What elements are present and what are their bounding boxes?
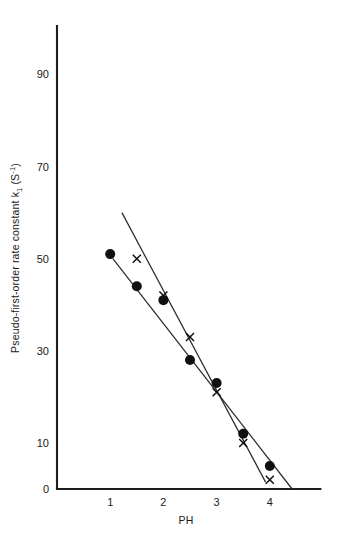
- plot-axes: [57, 26, 320, 489]
- data-series: [105, 249, 275, 484]
- series-cross-series: [133, 255, 274, 484]
- y-axis-title-superscript: -1: [8, 167, 17, 174]
- data-point-circle: [158, 295, 168, 305]
- y-tick-label: 50: [37, 253, 49, 265]
- y-axis-title: Pseudo-first-order rate constant k1 (S-1…: [8, 163, 24, 353]
- y-axis-title-units-close: ): [9, 163, 21, 167]
- circle-fit-line: [113, 259, 292, 489]
- x-tick-label: 1: [107, 496, 113, 508]
- data-point-circle: [265, 461, 275, 471]
- x-axis-title: PH: [179, 514, 194, 526]
- figure-container: 01030507090 1234 Pseudo-first-order rate…: [0, 0, 341, 548]
- x-axis-ticks: 1234: [107, 496, 273, 508]
- data-point-cross: [133, 255, 141, 263]
- y-axis-ticks: 01030507090: [37, 68, 49, 495]
- data-point-circle: [238, 429, 248, 439]
- svg-text:Pseudo-first-order rate consta: Pseudo-first-order rate constant k1 (S-1…: [8, 163, 24, 353]
- y-tick-label: 0: [43, 483, 49, 495]
- scatter-plot: 01030507090 1234 Pseudo-first-order rate…: [0, 0, 341, 548]
- x-tick-label: 3: [214, 496, 220, 508]
- fit-lines: [113, 213, 292, 489]
- data-point-circle: [185, 355, 195, 365]
- y-axis-title-units-open: (S: [9, 174, 21, 188]
- data-point-circle: [105, 249, 115, 259]
- y-tick-label: 10: [37, 437, 49, 449]
- data-point-cross: [266, 476, 274, 484]
- x-tick-label: 4: [267, 496, 273, 508]
- data-point-circle: [212, 378, 222, 388]
- x-tick-label: 2: [160, 496, 166, 508]
- y-tick-label: 70: [37, 161, 49, 173]
- data-point-circle: [132, 281, 142, 291]
- y-tick-label: 30: [37, 345, 49, 357]
- y-axis-title-main: Pseudo-first-order rate constant k: [9, 191, 21, 353]
- y-tick-label: 90: [37, 68, 49, 80]
